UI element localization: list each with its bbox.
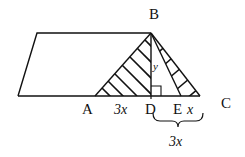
geometry-diagram: B A 3x D E x C y 3x — [0, 0, 245, 157]
label-dc-brace: 3x — [168, 134, 183, 149]
hatching-right — [150, 40, 204, 104]
label-ad-length: 3x — [113, 102, 128, 117]
right-angle-marker — [151, 86, 161, 96]
label-ec-length: x — [186, 102, 194, 117]
label-bd-height: y — [152, 60, 158, 72]
label-b: B — [149, 6, 159, 22]
label-e: E — [173, 101, 182, 117]
label-a: A — [82, 101, 93, 117]
parallelogram — [18, 33, 200, 96]
label-c: C — [221, 95, 231, 111]
label-d: D — [145, 101, 156, 117]
